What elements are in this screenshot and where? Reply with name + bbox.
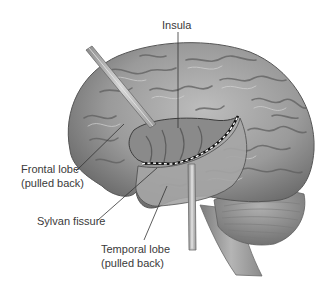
temporal-lobe-label-line2: (pulled back) (101, 256, 170, 270)
frontal-lobe-label: Frontal lobe (pulled back) (21, 162, 84, 190)
frontal-lobe-label-line1: Frontal lobe (21, 162, 84, 176)
brain-diagram: Insula Frontal lobe (pulled back) Sylvan… (0, 0, 334, 291)
insula-label: Insula (162, 18, 191, 32)
temporal-lobe-label: Temporal lobe (pulled back) (101, 242, 170, 270)
retractor-lower (188, 164, 196, 250)
sylvan-fissure-label: Sylvan fissure (37, 214, 105, 228)
frontal-lobe-label-line2: (pulled back) (21, 176, 84, 190)
temporal-lobe-label-line1: Temporal lobe (101, 242, 170, 256)
